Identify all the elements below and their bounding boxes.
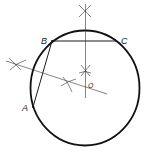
- compass-mark-mid: [61, 77, 76, 92]
- label-b: B: [41, 36, 47, 46]
- circumcircle: [31, 31, 140, 146]
- construction-diagram: B C A O: [0, 0, 146, 152]
- label-c: C: [121, 36, 128, 46]
- compass-mark-left: [9, 58, 26, 70]
- compass-mark-top: [79, 5, 91, 17]
- point-b-marker: [51, 40, 53, 42]
- compass-mark-center: [79, 65, 91, 76]
- point-a-marker: [32, 106, 34, 108]
- label-a: A: [21, 103, 28, 113]
- label-o: O: [88, 82, 94, 89]
- bisector-ab: [6, 61, 107, 94]
